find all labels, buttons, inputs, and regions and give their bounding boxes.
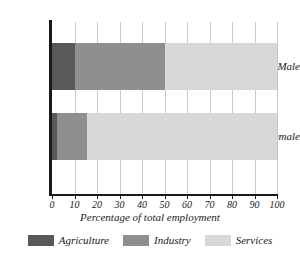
x-tick-label: 0 [40,199,64,210]
x-tick-label: 90 [243,199,267,210]
x-axis-title: Percentage of total employment [0,211,300,223]
chart-legend: AgricultureIndustryServices [0,234,300,246]
x-tick-label: 80 [220,199,244,210]
x-tick-label: 10 [63,199,87,210]
legend-item-industry: Industry [123,234,191,246]
bar-segment-male-agriculture [52,43,75,90]
gridline [277,22,278,194]
bar-segment-male-services [165,43,278,90]
x-tick-label: 20 [85,199,109,210]
x-tick-label: 100 [265,199,289,210]
stacked-bar-chart: Male Female 0102030405060708090100 Perce… [0,0,300,263]
legend-swatch-agriculture [28,235,54,246]
bar-segment-female-services [87,113,277,160]
legend-item-services: Services [205,234,273,246]
plot-area [52,22,277,194]
x-tick-label: 30 [108,199,132,210]
x-axis-line [49,194,278,196]
legend-swatch-industry [123,235,149,246]
legend-label-services: Services [236,234,273,246]
legend-label-industry: Industry [154,234,191,246]
legend-swatch-services [205,235,231,246]
x-tick-label: 60 [175,199,199,210]
x-tick-label: 70 [198,199,222,210]
bar-segment-female-industry [57,113,87,160]
legend-label-agriculture: Agriculture [59,234,109,246]
legend-item-agriculture: Agriculture [28,234,109,246]
x-tick-label: 40 [130,199,154,210]
bar-segment-male-industry [75,43,165,90]
x-tick-label: 50 [153,199,177,210]
